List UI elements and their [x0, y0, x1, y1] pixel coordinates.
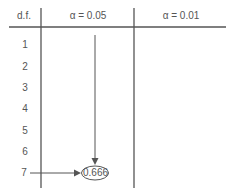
arrow-down-icon — [92, 158, 99, 165]
header-df: d.f. — [10, 10, 38, 21]
row-df-2: 2 — [18, 61, 32, 72]
row-df-6: 6 — [18, 146, 32, 157]
header-alpha-001: α = 0.01 — [135, 10, 227, 21]
row-df-7: 7 — [17, 167, 31, 178]
table-lines — [0, 0, 239, 194]
arrow-right-icon — [74, 170, 81, 177]
highlighted-value: 0.666 — [82, 167, 109, 178]
row-df-4: 4 — [18, 103, 32, 114]
row-df-1: 1 — [18, 39, 32, 50]
row-df-3: 3 — [18, 82, 32, 93]
header-alpha-005: α = 0.05 — [42, 10, 134, 21]
row-df-5: 5 — [18, 125, 32, 136]
